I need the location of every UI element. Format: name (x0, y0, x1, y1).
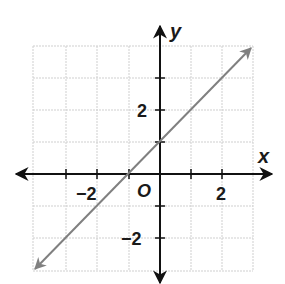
x-axis-label: x (257, 145, 270, 167)
y-tick-label-pos2: 2 (137, 101, 147, 121)
origin-label: O (137, 181, 151, 201)
y-tick-label-neg2: −2 (121, 229, 142, 249)
x-tick-label-neg2: −2 (76, 184, 97, 204)
coordinate-plane: y x O −2 2 2 −2 (0, 0, 285, 284)
x-tick-label-pos2: 2 (216, 184, 226, 204)
y-axis-label: y (169, 20, 182, 42)
graph-line (35, 48, 251, 269)
